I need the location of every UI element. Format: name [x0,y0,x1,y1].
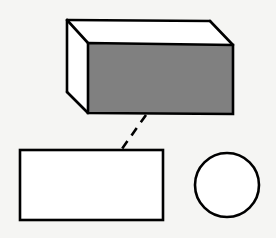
prism-top-face [67,20,233,45]
geometry-diagram: Rectangular prism with rectangular face … [0,0,276,238]
rectangular-prism [67,20,233,114]
figure-canvas: Rectangular prism with rectangular face … [0,0,276,238]
prism-back-top-edge [67,20,210,21]
circle-shape [195,153,259,217]
prism-front-face [88,43,233,114]
rectangle-shape [20,150,163,220]
